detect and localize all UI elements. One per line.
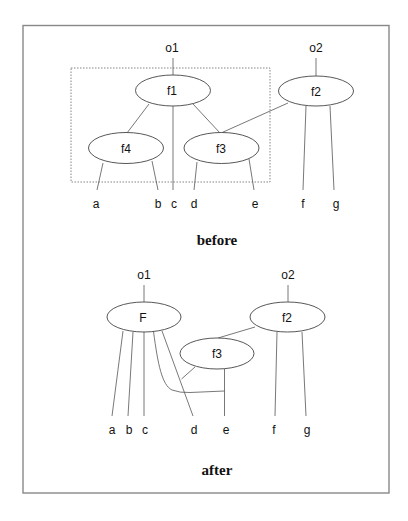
node-label-f2: f2 [282, 311, 292, 325]
node-label-f2: f2 [311, 85, 321, 99]
leaf-label-b: b [126, 423, 133, 437]
caption-after: after [202, 462, 233, 478]
node-label-f3: f3 [216, 142, 226, 156]
leaf-label-a: a [93, 197, 100, 211]
node-label-f1: f1 [167, 84, 177, 98]
root-label-o2: o2 [281, 268, 295, 282]
leaf-label-d: d [191, 197, 198, 211]
leaf-label-d: d [191, 423, 198, 437]
leaf-label-g: g [304, 423, 311, 437]
leaf-label-a: a [109, 423, 116, 437]
node-label-F: F [139, 311, 146, 325]
root-label-o1: o1 [165, 41, 179, 55]
leaf-label-c: c [142, 423, 148, 437]
node-label-f3: f3 [212, 347, 222, 361]
leaf-label-e: e [223, 423, 230, 437]
leaf-label-g: g [333, 197, 340, 211]
leaf-label-b: b [155, 197, 162, 211]
caption-before: before [197, 232, 238, 248]
leaf-label-c: c [171, 197, 177, 211]
diagram-canvas: o1 o2 f1 f2 f3 f4 a b c d e f g before o [0, 0, 408, 521]
root-label-o2: o2 [309, 41, 323, 55]
root-label-o1: o1 [137, 268, 151, 282]
node-label-f4: f4 [121, 142, 131, 156]
leaf-label-e: e [252, 197, 259, 211]
